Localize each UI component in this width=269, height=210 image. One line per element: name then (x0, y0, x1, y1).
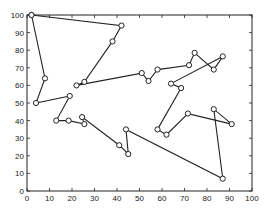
y-tick-label: 50 (15, 99, 24, 108)
data-point-marker (155, 67, 160, 72)
data-point-marker (29, 12, 34, 17)
y-tick-label: 100 (11, 11, 25, 20)
x-tick-label: 0 (25, 194, 30, 203)
y-tick-label: 40 (15, 117, 24, 126)
x-tick-label: 40 (113, 194, 122, 203)
x-tick-label: 50 (135, 194, 144, 203)
plot-frame (27, 15, 252, 191)
data-point-marker (139, 70, 144, 75)
x-tick-label: 100 (245, 194, 259, 203)
data-point-marker (220, 54, 225, 59)
data-point-marker (211, 67, 216, 72)
data-point-marker (119, 23, 124, 28)
y-tick-label: 70 (15, 64, 24, 73)
y-tick-label: 30 (15, 134, 24, 143)
data-point-marker (74, 83, 79, 88)
data-point-marker (42, 76, 47, 81)
y-tick-label: 90 (15, 29, 24, 38)
tour-line (32, 15, 232, 179)
data-point-marker (164, 132, 169, 137)
x-tick-label: 80 (203, 194, 212, 203)
x-tick-label: 70 (180, 194, 189, 203)
x-tick-label: 10 (45, 194, 54, 203)
data-point-marker (155, 127, 160, 132)
data-point-marker (220, 176, 225, 181)
chart: 0102030405060708090100010203040506070809… (0, 0, 269, 210)
data-point-marker (168, 81, 173, 86)
data-point-marker (110, 39, 115, 44)
data-point-marker (66, 118, 71, 123)
data-point-marker (82, 122, 87, 127)
data-point-marker (185, 111, 190, 116)
x-tick-label: 90 (225, 194, 234, 203)
data-point-marker (146, 78, 151, 83)
x-tick-label: 30 (90, 194, 99, 203)
data-point-marker (229, 122, 234, 127)
data-point-marker (192, 50, 197, 55)
data-point-marker (179, 85, 184, 90)
x-tick-label: 20 (68, 194, 77, 203)
x-tick-label: 60 (158, 194, 167, 203)
y-tick-label: 20 (15, 152, 24, 161)
data-point-marker (67, 93, 72, 98)
y-tick-label: 10 (15, 169, 24, 178)
data-point-marker (123, 127, 128, 132)
data-point-marker (126, 151, 131, 156)
data-point-marker (54, 118, 59, 123)
data-point-marker (186, 63, 191, 68)
data-point-marker (117, 143, 122, 148)
y-tick-label: 80 (15, 46, 24, 55)
data-point-marker (80, 114, 85, 119)
axes-box (27, 15, 252, 191)
data-point-marker (211, 107, 216, 112)
y-tick-label: 60 (15, 81, 24, 90)
series-line (32, 15, 232, 179)
data-markers (29, 12, 234, 181)
data-point-marker (82, 79, 87, 84)
data-point-marker (33, 100, 38, 105)
y-tick-label: 0 (20, 187, 25, 196)
